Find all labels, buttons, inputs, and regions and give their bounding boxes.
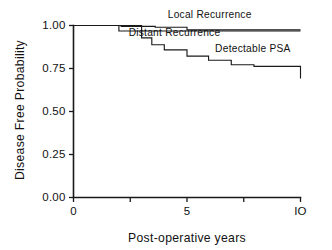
y-tick-label: 0.25 — [42, 148, 65, 160]
y-tick-label: 0.00 — [42, 191, 65, 203]
x-axis-tick-labels: 05IO — [70, 205, 307, 217]
y-tick-label: 0.50 — [42, 105, 65, 117]
series-label-distant-recurrence: Distant Recurrence — [129, 27, 221, 38]
y-tick-label: 0.75 — [42, 62, 65, 74]
x-axis-title: Post-operative years — [128, 231, 246, 245]
x-tick-label: IO — [294, 205, 307, 217]
x-tick-label: 5 — [184, 205, 191, 217]
survival-curve-chart: 0.000.250.500.751.00 05IO Local Recurren… — [0, 0, 332, 250]
y-axis-tick-labels: 0.000.250.500.751.00 — [42, 19, 65, 203]
y-tick-label: 1.00 — [42, 19, 65, 31]
chart-figure: 0.000.250.500.751.00 05IO Local Recurren… — [0, 0, 332, 250]
series-label-local-recurrence: Local Recurrence — [168, 9, 252, 20]
series-label-detectable-psa: Detectable PSA — [215, 43, 290, 54]
x-tick-label: 0 — [70, 205, 77, 217]
y-axis-title: Disease Free Probability — [13, 39, 27, 180]
